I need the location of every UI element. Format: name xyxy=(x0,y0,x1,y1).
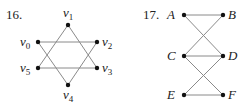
figure-17-edges xyxy=(184,15,223,95)
vertex-v2 xyxy=(95,40,99,44)
edge-v0-v4 xyxy=(38,42,68,85)
vertex-label-v2: v2 xyxy=(102,34,112,51)
figure-16-edges xyxy=(38,25,97,85)
vertex-label-v3: v3 xyxy=(102,60,113,77)
vertex-v5 xyxy=(36,66,40,70)
figure-16-number: 16. xyxy=(6,7,22,22)
graph-diagrams: 16. v0v1v2v3v4v5 17. ABCDEF xyxy=(0,0,245,110)
figure-16-vertices: v0v1v2v3v4v5 xyxy=(20,5,113,104)
vertex-label-v4: v4 xyxy=(63,87,74,104)
figure-17-vertices: ABCDEF xyxy=(166,7,238,102)
vertex-label-C: C xyxy=(167,48,176,63)
vertex-label-B: B xyxy=(228,7,236,22)
edge-v2-v4 xyxy=(68,42,97,85)
vertex-C xyxy=(182,54,186,58)
vertex-label-F: F xyxy=(227,87,237,102)
vertex-v0 xyxy=(36,40,40,44)
vertex-A xyxy=(182,13,186,17)
vertex-F xyxy=(221,93,225,97)
edge-v1-v3 xyxy=(68,25,97,68)
vertex-label-A: A xyxy=(166,7,175,22)
vertex-label-E: E xyxy=(166,87,175,102)
figure-17-number: 17. xyxy=(143,7,159,22)
vertex-label-v5: v5 xyxy=(20,60,31,77)
vertex-label-v1: v1 xyxy=(63,5,73,22)
figure-17: 17. ABCDEF xyxy=(143,7,238,102)
edge-v1-v5 xyxy=(38,25,68,68)
vertex-v3 xyxy=(95,66,99,70)
vertex-D xyxy=(221,54,225,58)
vertex-label-D: D xyxy=(227,48,238,63)
figure-16: 16. v0v1v2v3v4v5 xyxy=(6,5,113,104)
vertex-label-v0: v0 xyxy=(20,34,31,51)
vertex-B xyxy=(221,13,225,17)
vertex-v1 xyxy=(66,23,70,27)
vertex-E xyxy=(182,93,186,97)
